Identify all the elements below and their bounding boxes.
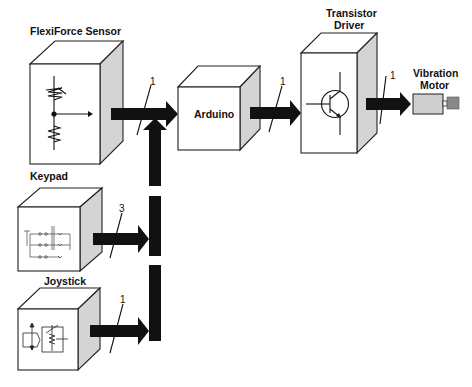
arduino-block: Arduino [178,66,260,150]
bus-width-label: 3 [119,203,125,214]
flexiforce-sensor-block: FlexiForce Sensor [30,25,123,164]
block-diagram: FlexiForce Sensor 1 Keypad [0,0,472,387]
motor-label-line2: Motor [420,79,449,91]
keypad-block: Keypad [18,170,102,271]
bus-width-label: 1 [390,70,396,81]
joystick-label: Joystick [44,275,86,287]
joystick-block: Joystick [18,275,100,370]
transistor-driver-block: Transistor Driver [301,7,377,153]
flexiforce-label: FlexiForce Sensor [30,25,121,37]
keypad-label: Keypad [30,170,68,182]
vibration-motor-block: Vibration Motor [413,67,459,114]
bus-width-label: 1 [120,294,126,305]
transistor-label-line2: Driver [334,19,364,31]
arduino-label: Arduino [194,108,234,120]
bus-width-label: 1 [280,76,286,87]
input-bus [143,118,167,341]
vibration-motor-icon [413,94,459,114]
motor-label-line1: Vibration [413,67,458,79]
bus-width-label: 1 [150,76,156,87]
transistor-label-line1: Transistor [326,7,377,19]
